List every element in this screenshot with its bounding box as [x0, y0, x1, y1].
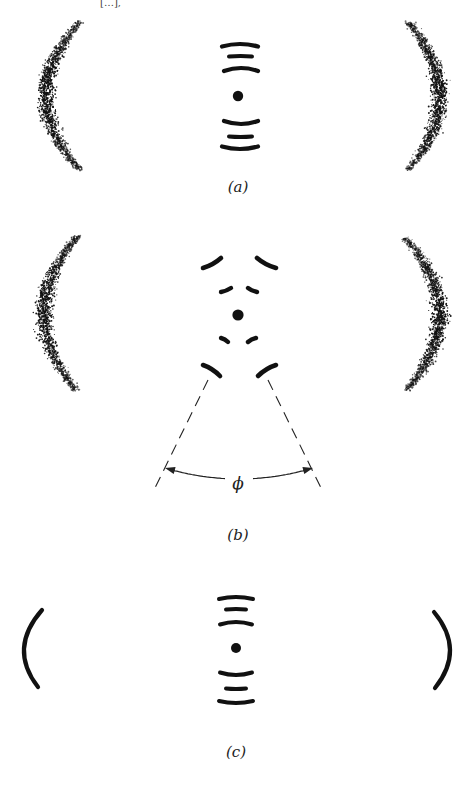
center-beam-spot: [231, 643, 241, 653]
meridional-arc: [219, 701, 253, 703]
meridional-arc: [219, 597, 253, 599]
panel-label-a: (a): [228, 178, 249, 196]
angle-phi-label: ϕ: [232, 473, 244, 493]
meridional-arc: [229, 56, 252, 57]
meridional-arc: [226, 609, 246, 610]
center-beam-spot: [233, 91, 243, 101]
panel-label-c: (c): [226, 743, 246, 761]
figure-background: [0, 0, 476, 788]
meridional-arc: [226, 689, 246, 690]
panel-label-b: (b): [227, 526, 248, 544]
fiber-diffraction-figure: […], (a) ϕ (b) (c): [0, 0, 476, 788]
center-beam-spot: [232, 309, 243, 320]
cropped-caption-fragment: […],: [100, 0, 121, 8]
meridional-arc: [229, 137, 252, 138]
